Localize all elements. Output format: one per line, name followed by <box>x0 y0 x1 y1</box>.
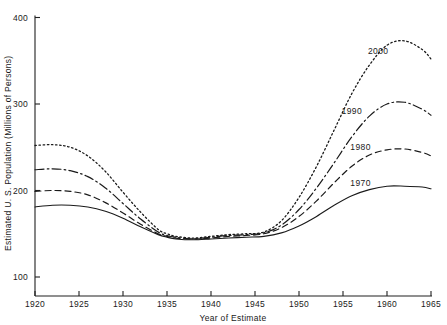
svg-text:1950: 1950 <box>289 299 309 309</box>
series-label-1990: 1990 <box>342 106 363 116</box>
series-labels: 2000199019801970 <box>342 46 389 188</box>
svg-text:1955: 1955 <box>333 299 353 309</box>
series-label-1980: 1980 <box>350 142 371 152</box>
population-line-chart: 1002003004001920192519301935194019451950… <box>0 0 447 325</box>
svg-text:1960: 1960 <box>377 299 397 309</box>
svg-text:100: 100 <box>13 272 28 282</box>
svg-text:1925: 1925 <box>69 299 89 309</box>
series-label-1970: 1970 <box>350 178 371 188</box>
svg-text:1945: 1945 <box>245 299 265 309</box>
curve-1970 <box>35 186 431 240</box>
svg-text:400: 400 <box>13 13 28 23</box>
y-axis-title: Estimated U. S. Population (Millions of … <box>3 56 13 251</box>
svg-text:1935: 1935 <box>157 299 177 309</box>
axes: 1002003004001920192519301935194019451950… <box>13 13 441 309</box>
chart-page: 1002003004001920192519301935194019451950… <box>0 0 447 325</box>
svg-text:300: 300 <box>13 99 28 109</box>
svg-text:1965: 1965 <box>421 299 441 309</box>
series-label-2000: 2000 <box>368 46 389 56</box>
svg-text:Year of Estimate: Year of Estimate <box>200 313 267 323</box>
curve-1980 <box>35 149 431 239</box>
svg-text:1930: 1930 <box>113 299 133 309</box>
series-curves <box>35 41 431 240</box>
axis-titles: Year of EstimateEstimated U. S. Populati… <box>3 56 266 323</box>
curve-1990 <box>35 102 431 239</box>
svg-text:1920: 1920 <box>25 299 45 309</box>
svg-text:1940: 1940 <box>201 299 221 309</box>
svg-text:200: 200 <box>13 186 28 196</box>
